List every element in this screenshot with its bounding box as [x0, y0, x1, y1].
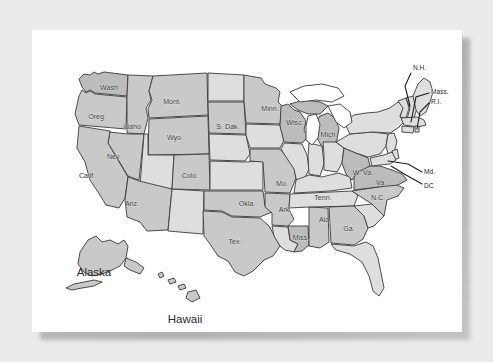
- label-nevada: Nev.: [107, 153, 121, 161]
- state-massachusetts[interactable]: [401, 117, 426, 127]
- label-hawaii: Hawaii: [168, 313, 203, 325]
- label-virginia: Va.: [376, 179, 386, 187]
- label-new-hampshire: N.H.: [413, 64, 426, 71]
- state-new-mexico[interactable]: [168, 189, 204, 234]
- label-alaska: Alaska: [77, 266, 112, 278]
- label-oregon: Oreg.: [88, 113, 106, 121]
- label-washington: Wash.: [100, 84, 120, 92]
- label-washington-dc: DC: [424, 182, 434, 189]
- map-card: Wash.Oreg.IdahoMont.Wyo.Nev.Calif.Ariz.C…: [32, 30, 462, 332]
- state-kansas[interactable]: [210, 161, 263, 190]
- state-nebraska[interactable]: [209, 134, 250, 161]
- inset-hawaii[interactable]: [158, 272, 200, 302]
- label-texas: Tex.: [228, 238, 241, 246]
- state-alabama[interactable]: [309, 207, 329, 248]
- alaska-panhandle: [124, 258, 144, 274]
- label-colorado: Colo.: [182, 172, 199, 180]
- label-montana: Mont.: [163, 98, 181, 106]
- label-alabama: Ala.: [319, 216, 331, 224]
- alaska-aleutians: [66, 280, 102, 290]
- label-arkansas: Ark.: [279, 206, 292, 214]
- state-oregon[interactable]: [75, 90, 127, 129]
- lake-superior: [290, 84, 344, 102]
- label-michigan: Mich.: [321, 131, 338, 139]
- label-mississippi: Miss.: [293, 234, 310, 242]
- state-ohio[interactable]: [323, 142, 344, 172]
- state-indiana[interactable]: [308, 143, 324, 176]
- label-wisconsin: Wisc.: [286, 119, 303, 127]
- label-oklahoma: Okla.: [239, 200, 256, 208]
- label-idaho: Idaho: [123, 123, 141, 131]
- state-connecticut[interactable]: [402, 126, 414, 133]
- label-missouri: Mo.: [276, 180, 288, 188]
- label-georgia: Ga.: [343, 225, 354, 233]
- label-arizona: Ariz.: [125, 200, 139, 208]
- state-florida[interactable]: [331, 242, 384, 296]
- state-iowa[interactable]: [246, 124, 284, 148]
- inset-alaska[interactable]: [66, 236, 144, 290]
- label-west-virginia: W. Va.: [353, 169, 373, 177]
- us-map[interactable]: Wash.Oreg.IdahoMont.Wyo.Nev.Calif.Ariz.C…: [32, 30, 462, 332]
- label-north-carolina: N.C.: [371, 194, 385, 202]
- inset-label-group: AlaskaHawaii: [77, 266, 203, 325]
- label-south-dakota: S. Dak.: [216, 123, 239, 131]
- label-wyoming: Wyo.: [167, 134, 183, 142]
- state-north-dakota[interactable]: [208, 73, 244, 101]
- hawaii-islands: [158, 272, 200, 302]
- state-minnesota[interactable]: [244, 75, 282, 124]
- label-massachusetts: Mass.: [431, 88, 449, 95]
- label-maryland: Md.: [424, 168, 435, 175]
- state-new-york[interactable]: [344, 102, 404, 134]
- label-minnesota: Minn.: [261, 105, 278, 113]
- label-rhode-island: R.I.: [431, 98, 441, 105]
- label-california: Calif.: [79, 172, 95, 180]
- map-figure: Wash.Oreg.IdahoMont.Wyo.Nev.Calif.Ariz.C…: [0, 0, 493, 362]
- state-montana[interactable]: [148, 73, 208, 118]
- label-tennessee: Tenn.: [314, 194, 331, 202]
